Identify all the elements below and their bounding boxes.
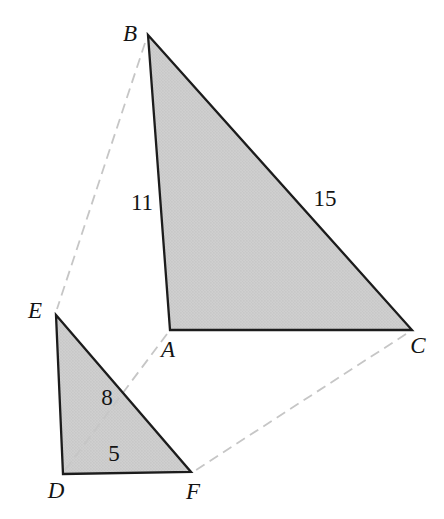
geometry-figure: BACEDF111585 [0, 0, 444, 519]
connector-C-F [196, 334, 406, 470]
vertex-label-D: D [47, 478, 65, 503]
side-label-8: 8 [101, 385, 113, 410]
side-label-15: 15 [314, 186, 337, 211]
vertex-label-E: E [27, 298, 42, 323]
vertex-label-C: C [410, 333, 426, 358]
vertex-label-A: A [159, 337, 176, 362]
vertex-label-F: F [185, 479, 201, 504]
side-label-11: 11 [131, 190, 153, 215]
connector-B-E [57, 43, 145, 309]
diagram-canvas: BACEDF111585 [0, 0, 444, 519]
vertex-label-B: B [123, 21, 137, 46]
side-label-5: 5 [108, 441, 120, 466]
